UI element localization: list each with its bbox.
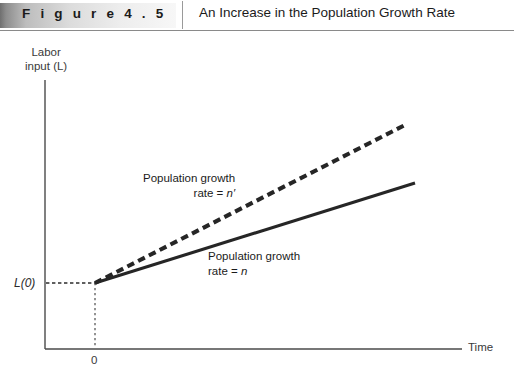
annotation-n-prefix: rate = [208,265,241,277]
annotation-n-prime-symbol: n′ [227,187,236,199]
x-axis-tick-origin: 0 [91,354,97,366]
figure-header: F i g u r e 4 . 5 An Increase in the Pop… [0,0,514,31]
y-axis-label-line1: Labor [25,45,67,59]
annotation-n-prime-line2: rate = n′ [143,186,235,201]
annotation-n-line1: Population growth [208,249,300,264]
figure-page: F i g u r e 4 . 5 An Increase in the Pop… [0,0,514,378]
header-divider [182,1,183,29]
annotation-growth-rate-n-prime: Population growth rate = n′ [143,171,235,200]
y-axis-label: Labor input (L) [25,45,67,73]
chart-svg [0,31,514,378]
annotation-n-line2: rate = n [208,264,300,279]
chart-plot-area: Labor input (L) Time L(0) 0 Population g… [0,31,514,378]
y-axis-tick-L0: L(0) [14,276,35,290]
x-axis-label: Time [468,341,493,353]
figure-number-label: F i g u r e 4 . 5 [22,6,172,21]
y-axis-label-line2: input (L) [25,59,67,73]
annotation-growth-rate-n: Population growth rate = n [208,249,300,278]
annotation-n-symbol: n [241,265,247,277]
annotation-n-prime-prefix: rate = [194,187,227,199]
annotation-n-prime-line1: Population growth [143,171,235,186]
figure-title: An Increase in the Population Growth Rat… [199,5,455,20]
